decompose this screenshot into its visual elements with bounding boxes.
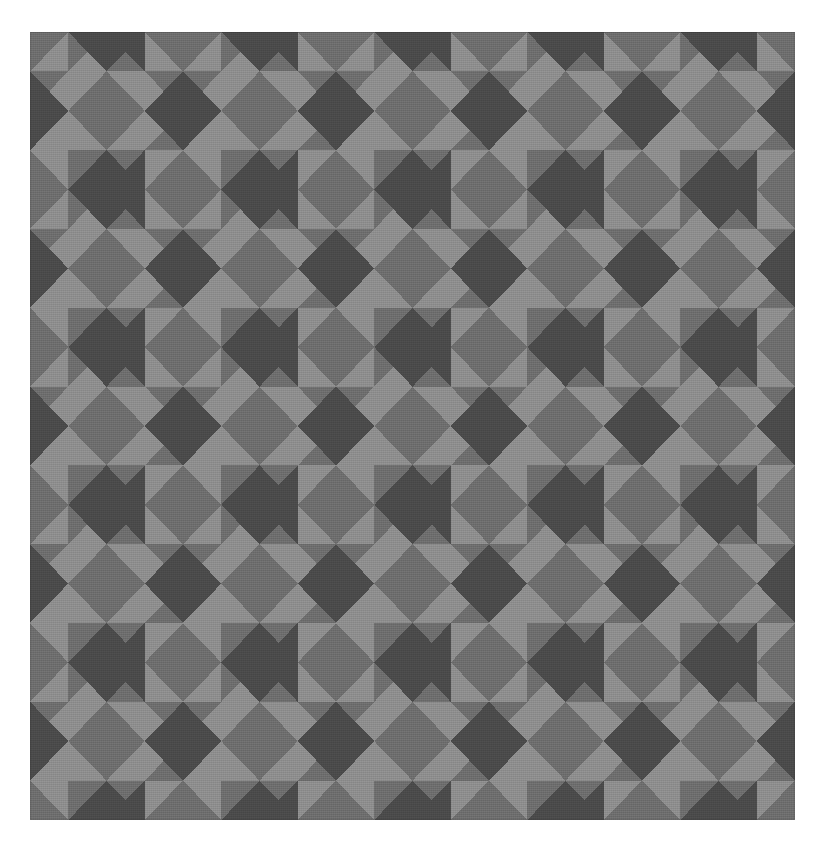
page-canvas (0, 0, 826, 857)
pattern-canvas (30, 32, 795, 820)
tile-group (30, 32, 795, 820)
pattern-figure (30, 32, 795, 820)
